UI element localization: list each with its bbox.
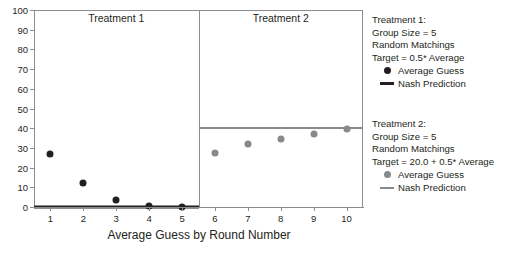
- plot-area: Treatment 1 Treatment 2: [34, 10, 363, 207]
- legend-t1-line-4: Target = 0.5* Average: [372, 52, 466, 65]
- y-tick-label: 100: [2, 5, 28, 16]
- legend-t2-dot-swatch: [378, 171, 396, 178]
- legend-t1-line-2: Group Size = 5: [372, 27, 466, 40]
- legend-t1-entry-nash-prediction: Nash Prediction: [372, 77, 466, 90]
- legend-treatment-2: Treatment 2: Group Size = 5 Random Match…: [372, 118, 494, 194]
- y-tick-label: 10: [2, 182, 28, 193]
- panel-divider: [199, 10, 200, 207]
- legend-t2-line-swatch: [378, 187, 396, 189]
- legend-t1-line-swatch: [378, 82, 396, 85]
- y-tick-label: 50: [2, 103, 28, 114]
- legend-t2-nash-prediction-label: Nash Prediction: [396, 182, 466, 195]
- legend-t1-line-3: Random Matchings: [372, 39, 466, 52]
- legend-t1-line-1: Treatment 1:: [372, 14, 466, 27]
- y-tick-label: 90: [2, 24, 28, 35]
- data-point-average-guess: [244, 140, 251, 147]
- x-tick-label: 2: [81, 213, 86, 224]
- data-point-average-guess: [310, 130, 317, 137]
- x-tick-mark: [182, 207, 183, 211]
- x-tick-mark: [347, 207, 348, 211]
- x-tick-label: 3: [114, 213, 119, 224]
- nash-prediction-line-2: [199, 127, 364, 129]
- x-tick-mark: [149, 207, 150, 211]
- data-point-average-guess: [80, 179, 87, 186]
- legend-t1-average-guess-label: Average Guess: [396, 65, 464, 78]
- y-tick-label: 30: [2, 142, 28, 153]
- line-marker-icon: [380, 82, 394, 85]
- y-tick-label: 40: [2, 123, 28, 134]
- legend-t2-entry-average-guess: Average Guess: [372, 168, 494, 181]
- x-tick-mark: [50, 207, 51, 211]
- legend-t1-dot-swatch: [378, 67, 396, 74]
- x-axis-title: Average Guess by Round Number: [34, 228, 364, 242]
- data-point-average-guess: [113, 196, 120, 203]
- data-point-average-guess: [47, 151, 54, 158]
- x-tick-label: 9: [311, 213, 316, 224]
- data-point-average-guess: [211, 150, 218, 157]
- x-tick-label: 7: [245, 213, 250, 224]
- x-tick-mark: [116, 207, 117, 211]
- legend-t2-entry-nash-prediction: Nash Prediction: [372, 181, 494, 194]
- x-tick-mark: [215, 207, 216, 211]
- legend-t1-nash-prediction-label: Nash Prediction: [396, 78, 466, 91]
- legend-t1-entry-average-guess: Average Guess: [372, 64, 466, 77]
- panel-title-treatment-1: Treatment 1: [34, 12, 199, 24]
- y-tick-label: 80: [2, 44, 28, 55]
- legend-t2-average-guess-label: Average Guess: [396, 169, 464, 182]
- x-tick-label: 1: [48, 213, 53, 224]
- legend-treatment-1: Treatment 1: Group Size = 5 Random Match…: [372, 14, 466, 90]
- x-tick-label: 4: [146, 213, 151, 224]
- chart-figure: 0102030405060708090100 Treatment 1 Treat…: [0, 0, 509, 259]
- panel-title-treatment-2: Treatment 2: [199, 12, 364, 24]
- line-marker-icon: [380, 187, 394, 189]
- data-point-average-guess: [277, 135, 284, 142]
- y-tick-label: 20: [2, 162, 28, 173]
- circle-marker-icon: [384, 67, 391, 74]
- x-tick-mark: [83, 207, 84, 211]
- y-tick-label: 70: [2, 64, 28, 75]
- x-tick-mark: [281, 207, 282, 211]
- x-tick-label: 5: [179, 213, 184, 224]
- legend-t2-line-1: Treatment 2:: [372, 118, 494, 131]
- legend-t2-line-2: Group Size = 5: [372, 131, 494, 144]
- x-tick-mark: [248, 207, 249, 211]
- circle-marker-icon: [384, 171, 391, 178]
- legend-t2-line-3: Random Matchings: [372, 143, 494, 156]
- x-tick-label: 6: [212, 213, 217, 224]
- legend-t2-line-4: Target = 20.0 + 0.5* Average: [372, 156, 494, 169]
- x-tick-label: 10: [341, 213, 352, 224]
- x-tick-label: 8: [278, 213, 283, 224]
- x-tick-mark: [314, 207, 315, 211]
- y-tick-label: 60: [2, 83, 28, 94]
- y-tick-label: 0: [2, 202, 28, 213]
